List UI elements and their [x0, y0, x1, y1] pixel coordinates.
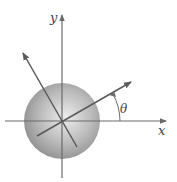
x-axis-label: x — [158, 123, 166, 138]
angle-arc — [113, 94, 120, 121]
angle-theta-label: θ — [120, 102, 128, 116]
rotated-axes-diagram: y x θ — [0, 0, 177, 182]
diagram-canvas: y x θ — [0, 0, 177, 182]
y-axis-label: y — [49, 10, 58, 25]
